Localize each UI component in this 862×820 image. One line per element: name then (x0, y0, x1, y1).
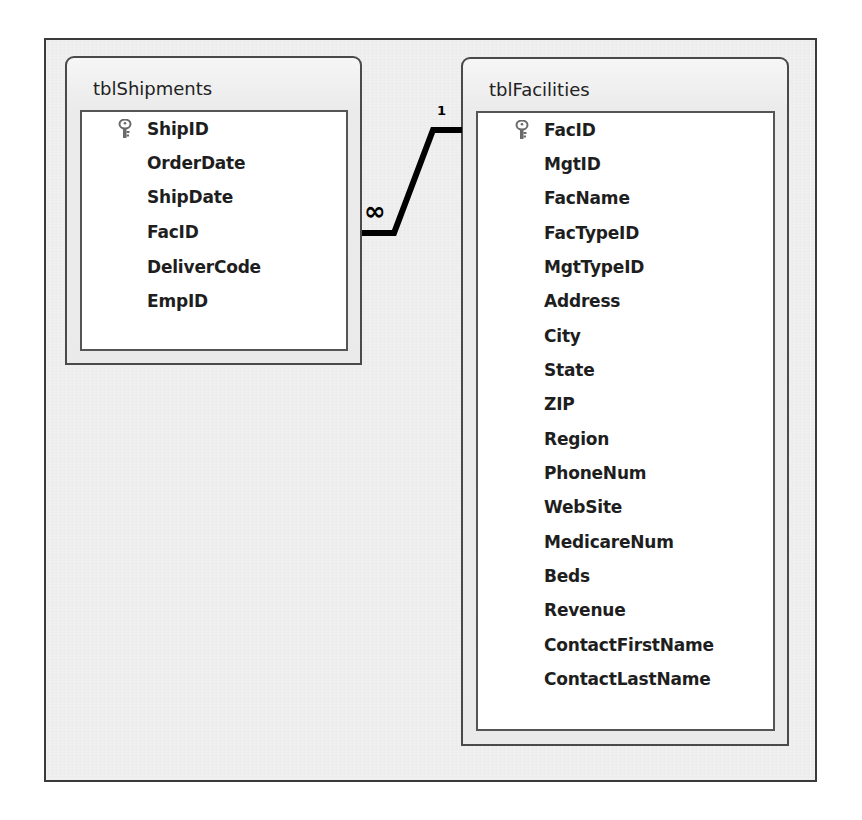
field-name: FacID (147, 217, 199, 247)
field-name: City (544, 321, 581, 351)
table-tblFacilities[interactable]: tblFacilities FacID MgtID FacName FacTyp… (461, 57, 789, 746)
one-cardinality-label: 1 (437, 103, 446, 119)
table-title[interactable]: tblFacilities (489, 79, 590, 101)
field-name: ZIP (544, 389, 575, 419)
field-name: FacName (544, 183, 630, 213)
field-name: OrderDate (147, 148, 245, 178)
field-row[interactable]: State (478, 355, 773, 385)
field-row[interactable]: MedicareNum (478, 527, 773, 557)
field-row[interactable]: Region (478, 424, 773, 454)
field-name: ShipID (147, 114, 209, 144)
field-row[interactable]: FacTypeID (478, 218, 773, 248)
field-row[interactable]: ZIP (478, 389, 773, 419)
field-name: EmpID (147, 286, 208, 316)
field-name: WebSite (544, 492, 622, 522)
field-row[interactable]: ShipDate (82, 182, 346, 212)
field-name: MgtID (544, 149, 601, 179)
field-name: ContactLastName (544, 664, 711, 694)
field-row[interactable]: Beds (478, 561, 773, 591)
field-row[interactable]: MgtID (478, 149, 773, 179)
field-row[interactable]: FacID (82, 217, 346, 247)
field-name: MedicareNum (544, 527, 674, 557)
field-name: Beds (544, 561, 590, 591)
field-name: PhoneNum (544, 458, 646, 488)
field-name: DeliverCode (147, 252, 261, 282)
field-name: Revenue (544, 595, 626, 625)
table-tblShipments[interactable]: tblShipments ShipID OrderDate ShipDate F… (65, 56, 362, 365)
field-row[interactable]: ContactLastName (478, 664, 773, 694)
field-row[interactable]: FacName (478, 183, 773, 213)
field-name: MgtTypeID (544, 252, 644, 282)
field-name: State (544, 355, 595, 385)
field-name: FacID (544, 115, 596, 145)
field-row[interactable]: EmpID (82, 286, 346, 316)
field-name: ShipDate (147, 182, 233, 212)
field-name: ContactFirstName (544, 630, 714, 660)
field-list[interactable]: ShipID OrderDate ShipDate FacID DeliverC… (80, 110, 348, 351)
field-row[interactable]: DeliverCode (82, 252, 346, 282)
table-title[interactable]: tblShipments (93, 78, 212, 100)
field-row[interactable]: PhoneNum (478, 458, 773, 488)
key-icon (118, 119, 132, 139)
field-row[interactable]: ContactFirstName (478, 630, 773, 660)
field-name: Address (544, 286, 620, 316)
field-list[interactable]: FacID MgtID FacName FacTypeID MgtTypeID … (476, 111, 775, 731)
field-name: Region (544, 424, 609, 454)
field-name: FacTypeID (544, 218, 639, 248)
key-icon (515, 120, 529, 140)
field-row[interactable]: WebSite (478, 492, 773, 522)
field-row[interactable]: Address (478, 286, 773, 316)
field-row[interactable]: FacID (478, 115, 773, 145)
field-row[interactable]: ShipID (82, 114, 346, 144)
field-row[interactable]: Revenue (478, 595, 773, 625)
field-row[interactable]: MgtTypeID (478, 252, 773, 282)
many-cardinality-label: ∞ (364, 196, 385, 226)
field-row[interactable]: OrderDate (82, 148, 346, 178)
field-row[interactable]: City (478, 321, 773, 351)
